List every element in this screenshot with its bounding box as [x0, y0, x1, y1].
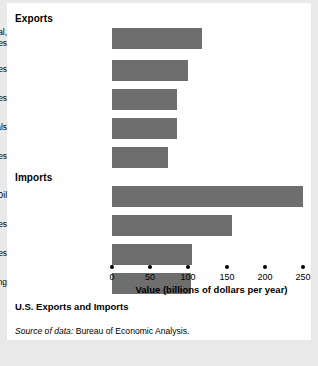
figure-card: Exports Business, professional, and tech…	[7, 3, 311, 340]
x-axis-title: Value (billions of dollars per year)	[112, 284, 311, 295]
figure-title: U.S. Exports and Imports	[15, 301, 311, 312]
axis-tick-dot	[148, 265, 152, 269]
figure-source-label: Source of data:	[15, 326, 73, 336]
bar-airplanes	[112, 147, 168, 168]
bar-business-professional-technical-services	[112, 28, 202, 49]
axis-tick-dot	[301, 265, 305, 269]
bar-row-label: Transportation services	[0, 64, 7, 75]
bar-automobiles	[112, 215, 232, 236]
axis-tick-dot	[186, 265, 190, 269]
bar-row-label: Appliances	[0, 248, 7, 259]
bar-chemicals	[112, 118, 177, 139]
figure-caption: U.S. Exports and Imports Source of data:…	[7, 301, 311, 336]
axis-tick-label: 150	[219, 272, 234, 282]
axis-tick-label: 0	[109, 272, 114, 282]
figure-source: Source of data: Bureau of Economic Analy…	[15, 326, 311, 336]
bar-row-label: Business, professional, and technical se…	[0, 27, 7, 48]
group-heading-exports: Exports	[15, 13, 53, 24]
figure-source-text: Bureau of Economic Analysis.	[76, 326, 190, 336]
bar-royalties-and-licenses	[112, 89, 177, 110]
bar-row-label: Oil	[0, 190, 7, 201]
group-heading-imports: Imports	[15, 172, 52, 183]
axis-tick-label: 100	[180, 272, 195, 282]
axis-tick-label: 200	[257, 272, 272, 282]
bar-row-label-line1: Business, professional,	[0, 27, 7, 37]
bar-row-label: Chemicals	[0, 122, 7, 133]
axis-tick-label: 250	[295, 272, 310, 282]
axis-tick-dot	[225, 265, 229, 269]
x-axis: 0 50 100 150 200 250 Value (billions of …	[7, 261, 311, 295]
bar-chart: Exports Business, professional, and tech…	[7, 3, 311, 295]
bar-oil	[112, 186, 303, 207]
bar-row-label: Automobiles	[0, 219, 7, 230]
bar-row-label-line2: and technical services	[0, 38, 7, 48]
bar-row-label: Clothing	[0, 277, 7, 288]
bar-row-label: Airplanes	[0, 151, 7, 162]
figure-page: Exports Business, professional, and tech…	[0, 0, 318, 366]
bar-row-label: Royalties and licenses	[0, 93, 7, 104]
axis-tick-label: 50	[145, 272, 155, 282]
axis-tick-dot	[110, 265, 114, 269]
bar-transportation-services	[112, 60, 188, 81]
axis-tick-dot	[263, 265, 267, 269]
